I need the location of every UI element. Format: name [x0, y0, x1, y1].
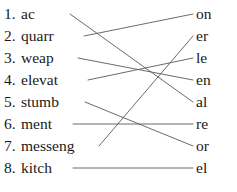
left-item-number: 4. — [4, 69, 19, 91]
left-item-number: 2. — [4, 25, 19, 47]
right-item-suffix: re — [196, 113, 208, 135]
right-item-5[interactable]: al — [196, 91, 207, 113]
left-item-6[interactable]: 6.ment — [4, 113, 52, 135]
left-item-number: 5. — [4, 91, 19, 113]
right-item-suffix: en — [196, 69, 211, 91]
left-item-stem: kitch — [21, 157, 52, 179]
left-item-stem: elevat — [21, 69, 58, 91]
connection-line-stumb-to-or[interactable] — [85, 102, 193, 146]
right-item-7[interactable]: or — [196, 135, 209, 157]
left-item-stem: stumb — [21, 91, 59, 113]
left-item-5[interactable]: 5.stumb — [4, 91, 59, 113]
connection-line-elevat-to-le[interactable] — [88, 58, 193, 80]
right-item-suffix: el — [196, 157, 207, 179]
left-item-4[interactable]: 4.elevat — [4, 69, 58, 91]
right-item-suffix: le — [196, 47, 207, 69]
right-item-3[interactable]: le — [196, 47, 207, 69]
connection-line-messeng-to-er[interactable] — [99, 36, 193, 146]
left-item-number: 6. — [4, 113, 19, 135]
left-item-number: 1. — [4, 3, 19, 25]
right-item-suffix: on — [196, 3, 212, 25]
right-item-2[interactable]: er — [196, 25, 208, 47]
right-item-1[interactable]: on — [196, 3, 212, 25]
left-item-3[interactable]: 3.weap — [4, 47, 54, 69]
left-item-8[interactable]: 8.kitch — [4, 157, 52, 179]
left-item-stem: weap — [21, 47, 54, 69]
right-item-6[interactable]: re — [196, 113, 208, 135]
left-item-stem: ment — [21, 113, 52, 135]
left-item-7[interactable]: 7.messeng — [4, 135, 74, 157]
left-item-number: 3. — [4, 47, 19, 69]
left-item-stem: quarr — [21, 25, 54, 47]
left-item-stem: messeng — [21, 135, 74, 157]
right-item-suffix: or — [196, 135, 209, 157]
right-item-4[interactable]: en — [196, 69, 211, 91]
left-item-1[interactable]: 1.ac — [4, 3, 35, 25]
right-item-suffix: al — [196, 91, 207, 113]
left-item-number: 8. — [4, 157, 19, 179]
right-item-8[interactable]: el — [196, 157, 207, 179]
right-item-suffix: er — [196, 25, 208, 47]
connection-line-quarr-to-on[interactable] — [84, 14, 193, 36]
left-item-number: 7. — [4, 135, 19, 157]
right-column: onerleenalreorel — [196, 0, 236, 192]
left-column: 1.ac2.quarr3.weap4.elevat5.stumb6.ment7.… — [4, 0, 100, 192]
left-item-stem: ac — [21, 3, 35, 25]
matching-worksheet: 1.ac2.quarr3.weap4.elevat5.stumb6.ment7.… — [0, 0, 237, 192]
left-item-2[interactable]: 2.quarr — [4, 25, 54, 47]
